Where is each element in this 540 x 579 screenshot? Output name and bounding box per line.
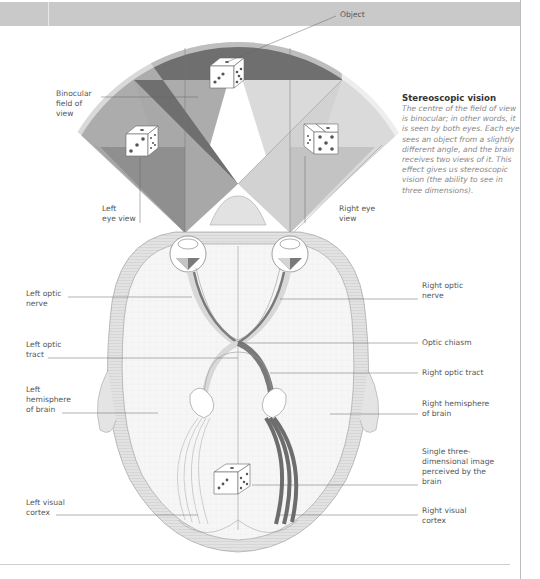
label-left-hemisphere: Left hemisphere of brain — [26, 385, 71, 415]
label-left-optic-tract: Left optic tract — [26, 340, 61, 360]
panel-body: The centre of the field of view is binoc… — [402, 104, 520, 196]
label-single-image: Single three- dimensional image perceive… — [422, 447, 494, 487]
panel-title: Stereoscopic vision — [402, 93, 520, 104]
label-left-visual-cortex: Left visual cortex — [26, 498, 65, 518]
right-eye — [272, 236, 308, 272]
label-left-optic-nerve: Left optic nerve — [26, 289, 61, 309]
label-right-optic-tract: Right optic tract — [422, 368, 483, 378]
label-right-visual-cortex: Right visual cortex — [422, 506, 467, 526]
perceived-image-die — [214, 464, 250, 494]
left-eye-view-die — [126, 126, 158, 156]
label-right-hemisphere: Right hemisphere of brain — [422, 399, 489, 419]
label-right-eye-view: Right eye view — [339, 204, 375, 224]
label-object: Object — [340, 10, 365, 20]
label-binocular-field: Binocular field of view — [56, 89, 92, 119]
right-eye-view-die — [304, 124, 338, 154]
object-die — [210, 58, 244, 88]
left-eye — [170, 236, 206, 272]
label-left-eye-view: Left eye view — [102, 204, 136, 224]
label-optic-chiasm: Optic chiasm — [422, 338, 472, 348]
stereoscopic-vision-panel: Stereoscopic vision The centre of the fi… — [402, 93, 520, 196]
brain — [97, 232, 378, 552]
label-right-optic-nerve: Right optic nerve — [422, 281, 463, 301]
